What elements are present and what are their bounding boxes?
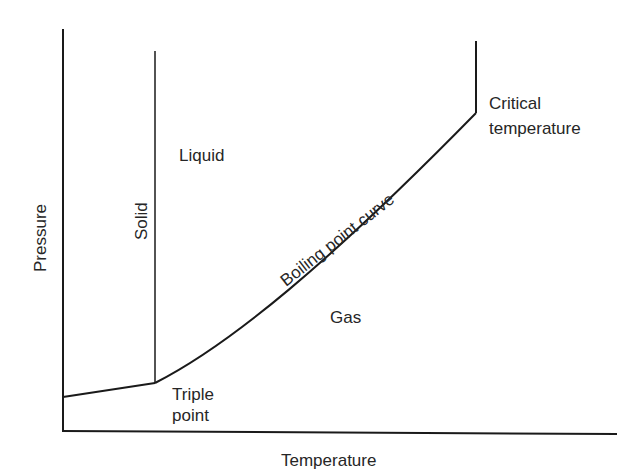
phase-diagram: Pressure Temperature Solid Liquid Gas Bo…	[0, 0, 641, 471]
gas-region-label: Gas	[330, 308, 361, 327]
sublimation-curve	[63, 383, 155, 397]
triple-point-label-line1: Triple	[172, 385, 214, 404]
y-axis-label: Pressure	[31, 204, 50, 272]
liquid-region-label: Liquid	[179, 146, 224, 165]
x-axis	[62, 431, 617, 434]
critical-temperature-label-line1: Critical	[489, 94, 541, 113]
x-axis-label: Temperature	[281, 451, 376, 470]
boiling-curve-label: Boiling point curve	[277, 190, 398, 291]
solid-region-label: Solid	[132, 202, 151, 240]
triple-point-label-line2: point	[172, 406, 209, 425]
critical-temperature-label-line2: temperature	[489, 119, 581, 138]
